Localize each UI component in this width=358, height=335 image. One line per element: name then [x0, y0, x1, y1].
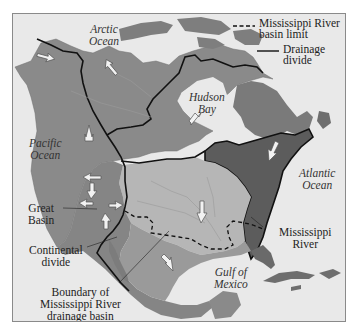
- map-frame: Mississippi River basin limit Drainage d…: [12, 13, 346, 322]
- label-boundary: Boundary ofMississippi Riverdrainage bas…: [40, 286, 121, 322]
- land-quebec: [233, 81, 313, 139]
- label-great-basin: GreatBasin: [28, 202, 54, 226]
- arctic-islands: [119, 17, 263, 49]
- cuba: [263, 271, 315, 283]
- label-arctic-ocean: ArcticOcean: [89, 23, 119, 47]
- legend-label: basin limit: [259, 29, 340, 40]
- map-legend: Mississippi River basin limit: [259, 18, 340, 40]
- yucatan: [209, 291, 241, 319]
- legend-label: divide: [283, 55, 325, 66]
- legend-item-basin-limit: Mississippi River basin limit: [259, 18, 340, 40]
- label-atlantic-ocean: AtlanticOcean: [299, 167, 335, 191]
- newfoundland: [317, 111, 331, 129]
- label-continental-divide: Continentaldivide: [29, 244, 83, 268]
- label-hudson-bay: HudsonBay: [189, 91, 225, 115]
- hispaniola: [319, 269, 341, 279]
- label-pacific-ocean: PacificOcean: [29, 137, 62, 161]
- map-legend-divide: Drainage divide: [283, 44, 325, 66]
- label-gulf-of-mexico: Gulf ofMexico: [214, 266, 248, 290]
- label-mississippi-river: MississippiRiver: [279, 226, 331, 250]
- jamaica: [291, 285, 301, 291]
